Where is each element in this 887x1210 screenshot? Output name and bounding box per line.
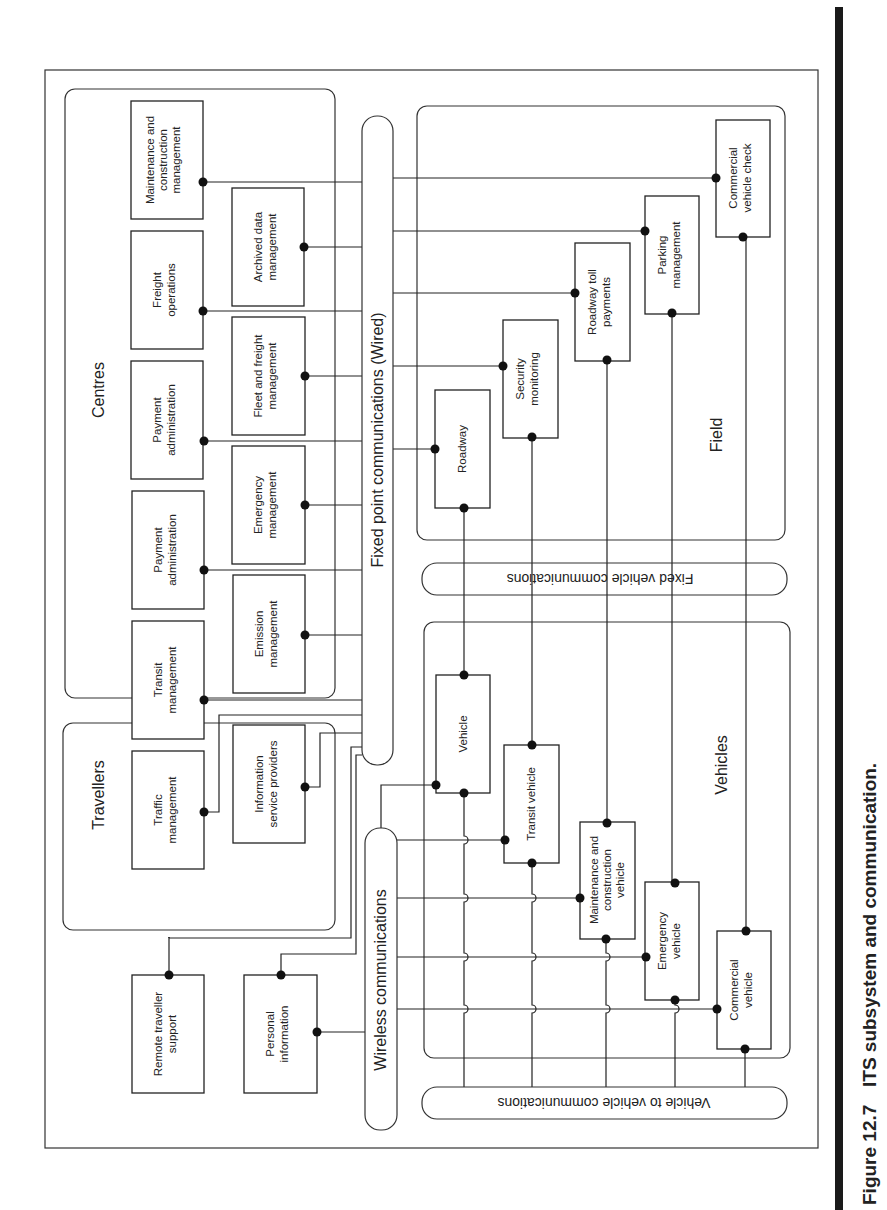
label-cvc-1: Commercial: [727, 147, 739, 208]
fixed-vehicle-bus-label: Fixed vehicle communications: [507, 571, 694, 587]
label-transit-vehicle: Transit vehicle: [525, 767, 537, 841]
label-transit-2: management: [166, 646, 178, 714]
label-remote-2: support: [166, 1014, 178, 1053]
v2v-bus-label: Vehicle to vehicle communications: [497, 1095, 710, 1111]
label-emergency-mgmt-1: Emergency: [252, 476, 264, 534]
label-security-1: Security: [514, 358, 526, 400]
centres-outer-boxes: [131, 101, 204, 869]
label-archived-1: Archived data: [252, 211, 264, 282]
label-maint-3: management: [170, 126, 182, 194]
label-fleet-1: Fleet and freight: [252, 334, 264, 418]
label-mcv-2: construction: [601, 849, 613, 911]
label-transit-1: Transit: [152, 662, 164, 698]
label-emission-2: management: [267, 600, 279, 668]
label-toll-1: Roadway toll: [586, 269, 598, 335]
label-personal-1: Personal: [264, 1011, 276, 1056]
label-payment-1a: Payment: [151, 397, 163, 443]
label-payment-2b: administration: [166, 514, 178, 586]
label-payment-1b: administration: [165, 384, 177, 456]
its-subsystem-diagram: Centres Travellers Field Vehicles Fixed …: [0, 0, 887, 1210]
label-traffic-1: Traffic: [152, 794, 164, 826]
label-freight-1: Freight: [151, 271, 163, 308]
label-roadway: Roadway: [456, 425, 468, 473]
wired-bus-label: Fixed point communications (Wired): [369, 312, 386, 567]
label-security-2: monitoring: [528, 352, 540, 406]
field-label: Field: [708, 418, 725, 453]
caption-rule: [835, 7, 843, 1210]
caption-title: ITS subsystem and communication.: [859, 763, 880, 1087]
label-freight-2: operations: [165, 263, 177, 317]
label-personal-2: information: [278, 1006, 290, 1063]
wireless-bus-label: Wireless communications: [372, 889, 389, 1070]
label-archived-2: management: [266, 213, 278, 281]
travellers-label: Travellers: [90, 760, 107, 830]
label-emergency-vehicle-1: Emergency: [656, 912, 668, 970]
label-parking-1: Parking: [656, 236, 668, 275]
label-emergency-vehicle-2: vehicle: [670, 923, 682, 959]
label-mcv-1: Maintenance and: [588, 836, 600, 924]
label-parking-2: management: [670, 221, 682, 289]
label-emergency-mgmt-2: management: [266, 471, 278, 539]
caption-figure-number: Figure 12.7: [859, 1105, 880, 1205]
label-maint-1: Maintenance and: [144, 116, 156, 204]
label-info-1: Information: [253, 755, 265, 813]
label-payment-2a: Payment: [152, 527, 164, 573]
label-emission-1: Emission: [253, 611, 265, 658]
label-commercial-vehicle-2: vehicle: [742, 972, 754, 1008]
centres-label: Centres: [90, 362, 107, 418]
label-commercial-vehicle-1: Commercial: [728, 959, 740, 1020]
label-maint-2: construction: [157, 129, 169, 191]
label-mcv-3: vehicle: [614, 862, 626, 898]
vehicles-label: Vehicles: [713, 735, 730, 795]
label-fleet-2: management: [266, 342, 278, 410]
label-cvc-2: vehicle check: [741, 143, 753, 212]
label-toll-2: payments: [600, 277, 612, 327]
label-traffic-2: management: [166, 776, 178, 844]
label-vehicle: Vehicle: [457, 715, 469, 752]
label-info-2: service providers: [267, 740, 279, 827]
label-remote-1: Remote traveller: [152, 992, 164, 1077]
